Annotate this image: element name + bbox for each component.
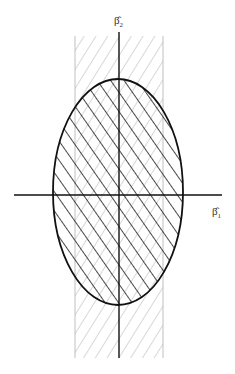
horizontal-axis-label: β̂1: [212, 205, 222, 220]
vertical-axis-label: β̂2: [114, 14, 124, 29]
diagram-canvas: β̂2 β̂1: [0, 0, 235, 374]
ellipse-region: [50, 76, 186, 308]
